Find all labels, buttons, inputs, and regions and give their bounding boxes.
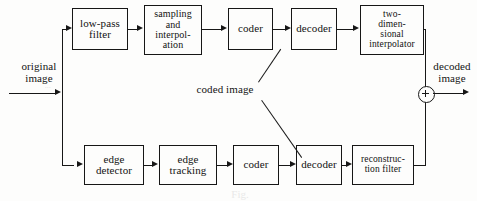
block-coder-top[interactable]: coder bbox=[228, 8, 273, 50]
wire-input bbox=[9, 93, 55, 94]
block-label: decoder bbox=[294, 23, 334, 34]
wire-fanout-bus bbox=[62, 29, 63, 166]
block-label: decoder bbox=[299, 159, 339, 170]
figure-canvas: original image ··· low-pass filter sampl… bbox=[0, 0, 477, 201]
arrow-to-edge-detector bbox=[77, 161, 83, 167]
block-label: edge detector bbox=[94, 154, 134, 177]
leader-line-to-top-link bbox=[258, 49, 281, 83]
block-two-dimensional-interpolator[interactable]: two- dimen- sional interpolator bbox=[360, 5, 424, 55]
wire-fanout-to-edge-detector bbox=[62, 165, 74, 166]
arrow-output bbox=[463, 89, 469, 95]
wire-sum-bus-top bbox=[425, 29, 426, 93]
block-label: coder bbox=[236, 23, 265, 34]
summing-junction[interactable] bbox=[418, 86, 435, 103]
coded-image-label: coded image bbox=[180, 84, 270, 96]
arrow-to-sampling bbox=[137, 25, 143, 31]
wire-decoder-to-interpolator bbox=[337, 29, 354, 30]
block-low-pass-filter[interactable]: low-pass filter bbox=[72, 8, 128, 50]
block-label: edge tracking bbox=[168, 154, 209, 177]
arrow-to-edge-tracking bbox=[152, 161, 158, 167]
figure-caption-ghost: Fig. bbox=[205, 188, 275, 200]
wire-sum-bus-bottom bbox=[425, 101, 426, 165]
block-decoder-bottom[interactable]: decoder bbox=[296, 145, 342, 185]
block-label: reconstruc- tion filter bbox=[359, 155, 407, 175]
block-decoder-top[interactable]: decoder bbox=[291, 8, 337, 50]
wire-sampling-to-coder bbox=[202, 29, 222, 30]
block-label: coder bbox=[242, 159, 271, 170]
block-label: low-pass filter bbox=[78, 18, 122, 41]
block-label: sampling and interpol- ation bbox=[152, 9, 193, 50]
block-label: two- dimen- sional interpolator bbox=[367, 10, 417, 49]
wire-output bbox=[433, 93, 465, 94]
block-edge-detector[interactable]: edge detector bbox=[84, 145, 144, 185]
arrow-to-interpolator bbox=[353, 25, 359, 31]
block-edge-tracking[interactable]: edge tracking bbox=[159, 145, 217, 185]
block-reconstruction-filter[interactable]: reconstruc- tion filter bbox=[352, 145, 414, 185]
block-sampling-and-interpolation[interactable]: sampling and interpol- ation bbox=[144, 5, 202, 55]
wire-reconstruction-to-sumbus bbox=[414, 165, 426, 166]
arrow-to-coder-top bbox=[221, 25, 227, 31]
decoded-image-label: decoded image bbox=[427, 61, 477, 85]
arrow-input bbox=[55, 89, 61, 95]
block-coder-bottom[interactable]: coder bbox=[233, 145, 279, 185]
